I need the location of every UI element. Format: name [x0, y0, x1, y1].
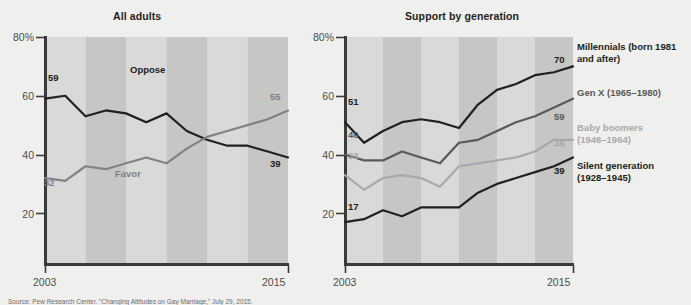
legend-item-genx-line1: Gen X (1965–1980): [577, 87, 661, 99]
source-note: Source: Pew Research Center. "Changing A…: [8, 298, 253, 305]
chart-svg-all-adults: [0, 0, 330, 305]
series-label-favor: Favor: [115, 168, 141, 179]
point-label-boomers-end: 45: [554, 138, 565, 149]
chart-panel-support-by-generation: Support by generation 80% 60 40 20 2003 …: [300, 0, 691, 305]
x-axis-ticks-left: [46, 265, 289, 273]
x-tick-label-end-left: 2015: [262, 276, 285, 288]
chart-panel-all-adults: All adults 80% 60 40 20 2003 2015 59 39 …: [0, 0, 330, 305]
legend-item-genx: Gen X (1965–1980): [577, 87, 661, 99]
plot-band: [459, 37, 497, 264]
legend-item-silent-generation-line1: Silent generation: [577, 160, 654, 172]
point-label-oppose-start: 59: [48, 72, 59, 83]
legend-item-silent-generation-line2: (1928–1945): [577, 172, 654, 184]
y-tick-label-40: 40: [0, 149, 34, 161]
y-tick-label-20: 20: [0, 208, 34, 220]
point-label-silent-start: 17: [348, 201, 359, 212]
plot-band: [167, 37, 208, 264]
y-tick-label-40-right: 40: [300, 149, 334, 161]
x-tick-label-end-right: 2015: [547, 276, 570, 288]
x-tick-label-start-right: 2003: [333, 276, 356, 288]
legend-item-millennials: Millennials (born 1981 and after): [577, 41, 676, 64]
point-label-millennials-start: 51: [348, 96, 359, 107]
y-tick-label-20-right: 20: [300, 208, 334, 220]
plot-band: [207, 37, 248, 264]
legend-item-millennials-line2: and after): [577, 53, 676, 65]
y-tick-label-60: 60: [0, 90, 34, 102]
legend-item-baby-boomers-line2: (1946–1964): [577, 134, 643, 146]
legend-item-baby-boomers: Baby boomers (1946–1964): [577, 122, 643, 145]
y-tick-label-60-right: 60: [300, 90, 334, 102]
legend-item-baby-boomers-line1: Baby boomers: [577, 122, 643, 134]
point-label-millennials-end: 70: [554, 54, 565, 65]
point-label-boomers-start: 33: [348, 150, 359, 161]
y-tick-label-80: 80%: [0, 31, 34, 43]
y-axis-ticks-left: [36, 38, 44, 214]
plot-band: [497, 37, 535, 264]
plot-band: [86, 37, 127, 264]
point-label-favor-end: 55: [270, 91, 281, 102]
point-label-genx-start: 40: [348, 129, 359, 140]
x-tick-label-start-left: 2003: [33, 276, 56, 288]
point-label-silent-end: 39: [554, 165, 565, 176]
point-label-genx-end: 59: [554, 111, 565, 122]
plot-bands-left: [45, 37, 288, 264]
point-label-oppose-end: 39: [270, 158, 281, 169]
y-tick-label-80-right: 80%: [300, 31, 334, 43]
point-label-favor-start: 32: [44, 177, 55, 188]
x-axis-ticks-right: [346, 265, 574, 273]
legend-item-millennials-line1: Millennials (born 1981: [577, 41, 676, 53]
y-axis-ticks-right: [336, 38, 344, 214]
plot-band: [535, 37, 573, 264]
series-label-oppose: Oppose: [130, 64, 165, 75]
legend-item-silent-generation: Silent generation (1928–1945): [577, 160, 654, 183]
